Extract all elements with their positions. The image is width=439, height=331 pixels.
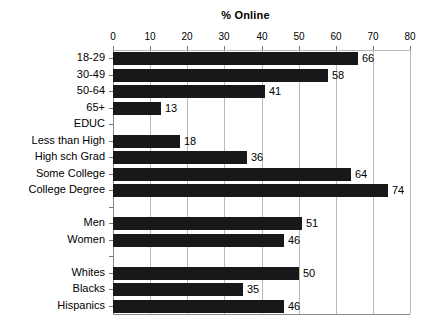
bar-value-label: 35 bbox=[243, 283, 259, 296]
bar bbox=[113, 184, 388, 197]
category-label: High sch Grad bbox=[35, 150, 105, 162]
x-tick-label-40: 40 bbox=[256, 31, 267, 42]
bar bbox=[113, 102, 161, 115]
bar-value-label: 74 bbox=[388, 184, 404, 197]
x-tick-label-60: 60 bbox=[330, 31, 341, 42]
category-label: 18-29 bbox=[77, 51, 105, 63]
bar bbox=[113, 217, 302, 230]
bar-row: Women46 bbox=[113, 232, 410, 249]
bar-value-label: 51 bbox=[302, 217, 318, 230]
gridline-80 bbox=[410, 50, 411, 314]
bar-value-label: 41 bbox=[265, 85, 281, 98]
category-label: Less than High bbox=[32, 134, 105, 146]
category-label: College Degree bbox=[29, 183, 105, 195]
x-tick-label-0: 0 bbox=[110, 31, 116, 42]
axis-bottom-line bbox=[113, 314, 410, 315]
bar-row: Men51 bbox=[113, 215, 410, 232]
bar bbox=[113, 135, 180, 148]
bar-rows: 18-296630-495850-644165+13EDUCLess than … bbox=[113, 50, 410, 314]
bar-row: Less than High18 bbox=[113, 133, 410, 150]
bar-value-label: 18 bbox=[180, 135, 196, 148]
x-tick-label-20: 20 bbox=[181, 31, 192, 42]
y-tick-mark bbox=[109, 124, 113, 125]
x-tick-label-80: 80 bbox=[404, 31, 415, 42]
bar bbox=[113, 168, 351, 181]
bar-value-label: 50 bbox=[299, 267, 315, 280]
bar-row: High sch Grad36 bbox=[113, 149, 410, 166]
bar-value-label: 36 bbox=[247, 151, 263, 164]
bar-row: College Degree74 bbox=[113, 182, 410, 199]
bar-value-label: 64 bbox=[351, 168, 367, 181]
category-label: 65+ bbox=[86, 101, 105, 113]
category-label: Blacks bbox=[73, 282, 105, 294]
category-label: EDUC bbox=[74, 117, 105, 129]
chart-title: % Online bbox=[0, 9, 439, 21]
bar-row: Blacks35 bbox=[113, 281, 410, 298]
bar-value-label: 58 bbox=[328, 69, 344, 82]
bar-row: 30-4958 bbox=[113, 67, 410, 84]
bar bbox=[113, 69, 328, 82]
x-tick-label-30: 30 bbox=[218, 31, 229, 42]
x-tick-label-50: 50 bbox=[293, 31, 304, 42]
bar-value-label: 46 bbox=[284, 234, 300, 247]
bar-row: Hispanics46 bbox=[113, 298, 410, 315]
category-label: Whites bbox=[71, 266, 105, 278]
bar-row bbox=[113, 199, 410, 216]
bar-row: 18-2966 bbox=[113, 50, 410, 67]
bar-row bbox=[113, 248, 410, 265]
y-tick-mark bbox=[109, 207, 113, 208]
category-label: Some College bbox=[36, 167, 105, 179]
bar-value-label: 13 bbox=[161, 102, 177, 115]
category-label: Women bbox=[67, 233, 105, 245]
bar bbox=[113, 234, 284, 247]
bar bbox=[113, 267, 299, 280]
bar bbox=[113, 52, 358, 65]
category-label: Men bbox=[84, 216, 105, 228]
bar-value-label: 66 bbox=[358, 52, 374, 65]
bar bbox=[113, 283, 243, 296]
bar-row: 65+13 bbox=[113, 100, 410, 117]
y-tick-mark bbox=[109, 256, 113, 257]
category-label: 50-64 bbox=[77, 84, 105, 96]
bar-row: 50-6441 bbox=[113, 83, 410, 100]
bar-value-label: 46 bbox=[284, 300, 300, 313]
x-axis-tick-labels: 01020304050607080 bbox=[113, 31, 410, 45]
bar bbox=[113, 85, 265, 98]
x-tick-label-70: 70 bbox=[367, 31, 378, 42]
bar-row: Whites50 bbox=[113, 265, 410, 282]
bar-row: EDUC bbox=[113, 116, 410, 133]
bar bbox=[113, 151, 247, 164]
bar-row: Some College64 bbox=[113, 166, 410, 183]
x-tick-label-10: 10 bbox=[144, 31, 155, 42]
category-label: 30-49 bbox=[77, 68, 105, 80]
category-label: Hispanics bbox=[57, 299, 105, 311]
bar bbox=[113, 300, 284, 313]
bar-chart: % Online 01020304050607080 18-296630-495… bbox=[0, 0, 439, 331]
plot-area: 18-296630-495850-644165+13EDUCLess than … bbox=[113, 50, 410, 314]
